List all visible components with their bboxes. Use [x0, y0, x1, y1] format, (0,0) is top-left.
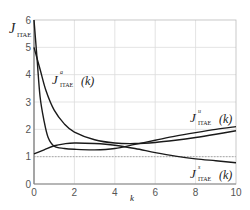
svg-text:ITAE: ITAE — [60, 82, 74, 88]
svg-text:ITAE: ITAE — [198, 120, 212, 126]
x-tick-label: 6 — [152, 187, 158, 198]
chart: 02468100123456 J ITAE k J a ITAE (k) J u… — [0, 0, 250, 210]
y-tick-label: 4 — [25, 69, 31, 80]
x-tick-label: 0 — [31, 187, 37, 198]
svg-text:(k): (k) — [81, 74, 94, 88]
x-tick-label: 2 — [72, 187, 78, 198]
x-tick-label: 4 — [112, 187, 118, 198]
x-tick-label: 8 — [193, 187, 199, 198]
svg-text:ITAE: ITAE — [198, 176, 212, 182]
svg-text:J: J — [52, 72, 59, 87]
y-tick-label: 6 — [25, 15, 31, 26]
data-series — [34, 20, 236, 163]
y-tick-label: 1 — [25, 151, 31, 162]
y-tick-label: 0 — [25, 179, 31, 190]
svg-text:(k): (k) — [219, 168, 232, 182]
y-tick-label: 2 — [25, 124, 31, 135]
svg-text:u: u — [198, 108, 201, 114]
y-tick-label: 5 — [25, 42, 31, 53]
svg-text:(k): (k) — [219, 112, 232, 126]
series-line-2 — [34, 143, 236, 163]
x-axis-label: k — [130, 193, 135, 203]
svg-text:ITAE: ITAE — [17, 31, 31, 38]
svg-text:J: J — [9, 21, 16, 36]
x-tick-label: 10 — [230, 187, 242, 198]
annotation-s: J s ITAE (k) — [190, 164, 232, 182]
svg-text:a: a — [60, 69, 63, 75]
tick-labels: 02468100123456 — [25, 15, 242, 199]
annotation-a: J a ITAE (k) — [52, 69, 94, 88]
svg-text:s: s — [198, 164, 201, 170]
annotation-u: J u ITAE (k) — [190, 108, 232, 126]
y-tick-label: 3 — [25, 97, 31, 108]
